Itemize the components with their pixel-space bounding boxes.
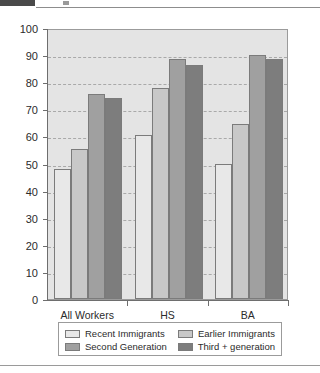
bar bbox=[249, 55, 266, 299]
y-axis-tick-label: 80 bbox=[0, 78, 38, 89]
legend-item-second-generation: Second Generation bbox=[65, 342, 178, 352]
bar bbox=[135, 135, 152, 299]
y-axis-tick bbox=[43, 300, 48, 301]
legend-item-earlier-immigrants: Earlier Immigrants bbox=[178, 329, 275, 339]
bars-layer bbox=[48, 30, 287, 299]
legend-label: Second Generation bbox=[85, 342, 167, 352]
x-axis-tick bbox=[127, 301, 128, 306]
legend-label: Earlier Immigrants bbox=[198, 329, 275, 339]
y-axis-tick-label: 60 bbox=[0, 132, 38, 143]
y-axis-tick bbox=[43, 273, 48, 274]
bar bbox=[186, 65, 203, 299]
y-axis-tick-label: 90 bbox=[0, 51, 38, 62]
legend-swatch-icon bbox=[65, 330, 80, 338]
plot-area bbox=[47, 29, 288, 300]
bar bbox=[88, 94, 105, 299]
legend-swatch-icon bbox=[178, 330, 193, 338]
y-axis-tick bbox=[43, 192, 48, 193]
y-axis-tick bbox=[43, 29, 48, 30]
legend-label: Third + generation bbox=[198, 342, 275, 352]
bar bbox=[169, 59, 186, 299]
y-axis-tick-label: 0 bbox=[0, 295, 38, 306]
scan-artifact-dark-block bbox=[0, 0, 35, 6]
bar-group bbox=[135, 30, 203, 299]
x-axis-tick bbox=[208, 301, 209, 306]
y-axis-tick bbox=[43, 165, 48, 166]
y-axis-tick-label: 10 bbox=[0, 268, 38, 279]
y-axis-tick-label: 100 bbox=[0, 24, 38, 35]
bar bbox=[266, 59, 283, 299]
y-axis-tick bbox=[43, 110, 48, 111]
legend-row: Recent Immigrants Earlier Immigrants bbox=[65, 327, 275, 340]
bar-group bbox=[215, 30, 283, 299]
y-axis-tick bbox=[43, 246, 48, 247]
y-axis-tick-label: 30 bbox=[0, 214, 38, 225]
header-divider-rule bbox=[36, 7, 320, 8]
bar bbox=[152, 88, 169, 299]
bar bbox=[215, 164, 232, 300]
bar bbox=[232, 124, 249, 299]
footer-divider-rule bbox=[0, 365, 320, 366]
y-axis-tick-label: 70 bbox=[0, 105, 38, 116]
chart-legend: Recent Immigrants Earlier Immigrants Sec… bbox=[58, 322, 282, 356]
bar bbox=[54, 169, 71, 299]
x-axis-tick-label: BA bbox=[194, 310, 302, 321]
bar-group bbox=[54, 30, 122, 299]
grouped-bar-chart: 0102030405060708090100 All WorkersHSBA R… bbox=[0, 9, 320, 365]
legend-row: Second Generation Third + generation bbox=[65, 340, 275, 353]
legend-label: Recent Immigrants bbox=[85, 329, 165, 339]
y-axis-tick bbox=[43, 137, 48, 138]
legend-swatch-icon bbox=[65, 343, 80, 351]
legend-item-recent-immigrants: Recent Immigrants bbox=[65, 329, 178, 339]
scan-artifact-smudge bbox=[63, 1, 69, 5]
y-axis-tick-label: 20 bbox=[0, 241, 38, 252]
legend-swatch-icon bbox=[178, 343, 193, 351]
x-axis-tick bbox=[288, 301, 289, 306]
y-axis-tick bbox=[43, 56, 48, 57]
page-header-strip bbox=[0, 0, 320, 9]
y-axis-tick bbox=[43, 83, 48, 84]
bar bbox=[71, 149, 88, 299]
legend-item-third-plus-generation: Third + generation bbox=[178, 342, 275, 352]
y-axis-tick bbox=[43, 219, 48, 220]
bar bbox=[105, 98, 122, 299]
y-axis-tick-label: 50 bbox=[0, 160, 38, 171]
y-axis-tick-label: 40 bbox=[0, 187, 38, 198]
x-axis-line bbox=[47, 300, 289, 301]
